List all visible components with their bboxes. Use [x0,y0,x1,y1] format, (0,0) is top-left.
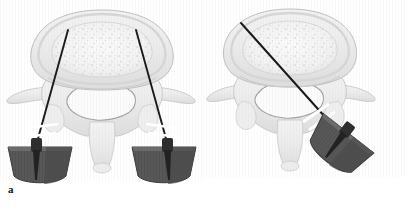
panel-b-drawing [203,0,407,208]
panel-a: a [0,0,204,208]
right-handle-collar [162,138,173,152]
panel-a-label: a [8,184,14,195]
panel-a-drawing [0,0,204,208]
figure-illustration: a [0,0,407,208]
left-handle-collar [31,138,42,152]
panel-b: b [203,0,407,208]
vertebra-b [203,0,407,178]
texture-overlay [203,0,407,178]
